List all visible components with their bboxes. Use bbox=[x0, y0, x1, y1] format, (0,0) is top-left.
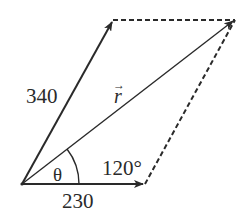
theta-label: θ bbox=[53, 164, 62, 185]
resultant-arrow-accent: → bbox=[113, 78, 125, 92]
vector-230-label: 230 bbox=[62, 189, 94, 213]
vector-parallelogram-diagram: 340 r → θ 120° 230 bbox=[0, 0, 241, 222]
angle-120-label: 120° bbox=[102, 156, 142, 180]
origin-point bbox=[20, 182, 23, 185]
theta-angle-arc bbox=[67, 149, 79, 184]
vector-340-label: 340 bbox=[26, 84, 58, 108]
dashed-right-edge bbox=[145, 20, 235, 184]
